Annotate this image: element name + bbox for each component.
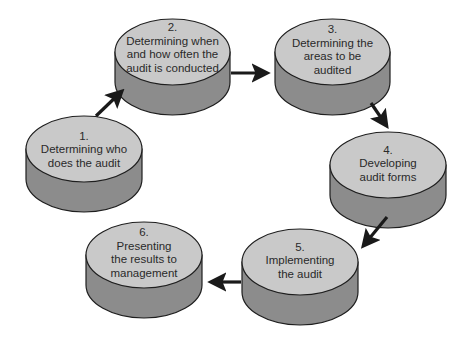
audit-process-diagram: 1. Determining who does the audit 2. Det… [0, 0, 465, 342]
arrow-3-to-4-icon [371, 103, 386, 125]
arrow-1-to-2-icon [96, 92, 121, 116]
arrow-4-to-5-icon [364, 217, 387, 245]
flow-arrows [0, 0, 465, 342]
